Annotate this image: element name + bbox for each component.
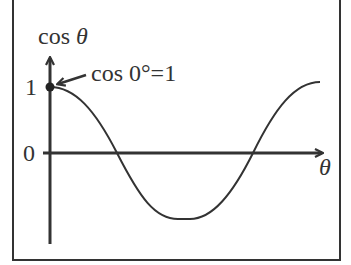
point-cos0 (46, 83, 55, 92)
x-axis-label: θ (319, 155, 331, 179)
y-label-text: cos (38, 23, 70, 49)
annotation-label: cos 0°=1 (91, 61, 176, 85)
y-label-theta: θ (76, 23, 88, 49)
y-tick-1: 1 (25, 75, 37, 99)
cosine-curve (50, 82, 320, 219)
y-tick-0: 0 (23, 141, 35, 165)
y-axis-label: cos θ (38, 24, 88, 48)
annotation-arrow (58, 75, 86, 84)
